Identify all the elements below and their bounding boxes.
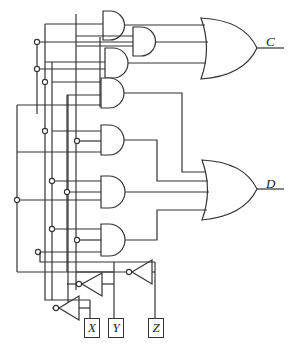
and-gate-6 xyxy=(101,176,125,208)
not-gate-y xyxy=(67,273,114,296)
and-gate-4 xyxy=(101,78,124,108)
and-gate-5 xyxy=(101,125,124,155)
and-gate-3 xyxy=(105,48,128,78)
junction-dots xyxy=(14,39,79,254)
output-label-c: C xyxy=(266,34,275,50)
logic-circuit xyxy=(0,0,295,350)
input-buses xyxy=(17,14,100,310)
and-gate-7 xyxy=(101,224,125,256)
input-box-x: X xyxy=(84,318,100,338)
input-box-y: Y xyxy=(108,318,124,338)
input-box-z: Z xyxy=(148,318,164,338)
and-output-wires xyxy=(124,25,209,240)
output-label-d: D xyxy=(266,176,275,192)
and-gate-2 xyxy=(133,27,155,56)
